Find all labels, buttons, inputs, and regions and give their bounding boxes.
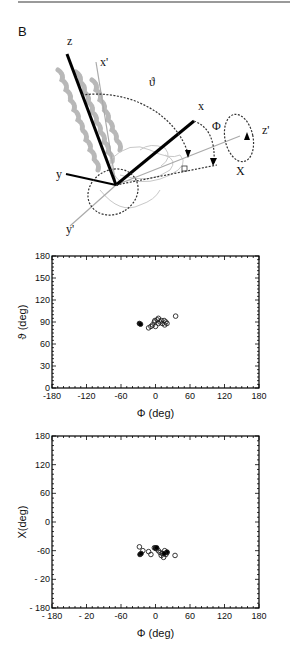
x-tick-label: 180 — [251, 611, 266, 621]
chi-vs-phi-plot: - 180- 20-60060120180- 180- 20-600601201… — [16, 431, 267, 639]
y-tick-label: 180 — [35, 431, 50, 441]
x-tick-label: 60 — [185, 391, 195, 401]
x-tick-label: 0 — [153, 611, 158, 621]
x-tick-label: 0 — [153, 391, 158, 401]
y-tick-label: - 180 — [29, 603, 50, 613]
axis-label-z: z — [67, 34, 72, 48]
x-tick-label: 120 — [217, 611, 232, 621]
y-tick-label: 60 — [40, 339, 50, 349]
angle-label-chi: X — [236, 164, 245, 178]
x-axis-label: Φ (deg) — [137, 627, 175, 639]
axis-label-z-prime: z' — [262, 123, 270, 137]
y-tick-label: - 20 — [34, 574, 50, 584]
y-tick-label: 90 — [40, 317, 50, 327]
data-point — [137, 545, 142, 550]
y-tick-label: 180 — [35, 251, 50, 261]
theta-vs-phi-plot: -180-120-600601201800306090120150180Φ (d… — [16, 251, 267, 419]
y-tick-label: 150 — [35, 273, 50, 283]
y-axis-label: ϑ (deg) — [16, 305, 28, 340]
x-tick-label: -60 — [114, 391, 127, 401]
data-point — [138, 322, 143, 327]
y-tick-label: 120 — [35, 460, 50, 470]
data-point — [162, 551, 167, 556]
y-tick-label: 120 — [35, 295, 50, 305]
data-point — [154, 546, 159, 551]
data-point — [139, 551, 144, 556]
data-point — [173, 553, 178, 558]
rotation-diagram: z x' ϑ x Φ z' X y y' — [56, 34, 270, 236]
x-axis-label: Φ (deg) — [137, 407, 175, 419]
y-tick-label: 30 — [40, 361, 50, 371]
axis-label-x-prime: x' — [100, 55, 108, 69]
y-tick-label: 60 — [40, 488, 50, 498]
x-tick-label: 120 — [217, 391, 232, 401]
y-axis-label: X(deg) — [16, 505, 28, 538]
axis-label-y-prime: y' — [66, 222, 74, 236]
x-tick-label: -120 — [77, 391, 95, 401]
plot-frame — [52, 256, 259, 388]
y-tick-label: 0 — [45, 383, 50, 393]
x-tick-label: 60 — [185, 611, 195, 621]
data-point — [173, 314, 178, 319]
angle-label-phi: Φ — [212, 119, 221, 133]
angle-label-theta: ϑ — [149, 75, 155, 89]
x-tick-label: -60 — [114, 611, 127, 621]
axis-label-y: y — [56, 167, 62, 181]
x-tick-label: 180 — [251, 391, 266, 401]
figure-canvas: z x' ϑ x Φ z' X y y' -180-120-6006012018… — [0, 0, 290, 668]
x-tick-label: - 20 — [79, 611, 95, 621]
axis-label-x: x — [198, 99, 204, 113]
y-tick-label: 0 — [45, 517, 50, 527]
plot-frame — [52, 436, 259, 608]
y-tick-label: -60 — [37, 546, 50, 556]
